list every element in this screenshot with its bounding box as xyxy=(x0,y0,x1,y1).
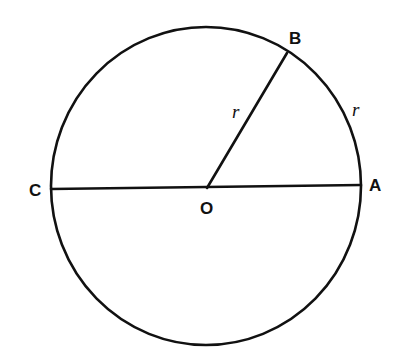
arc-label-r: r xyxy=(352,99,360,120)
point-label-C: C xyxy=(29,181,41,200)
point-label-B: B xyxy=(289,29,301,48)
point-label-A: A xyxy=(369,176,381,195)
point-label-O: O xyxy=(200,199,213,218)
radius-OB xyxy=(207,53,287,188)
circle-radian-diagram: B A C O r r xyxy=(0,0,400,364)
radius-label-r: r xyxy=(232,101,240,122)
